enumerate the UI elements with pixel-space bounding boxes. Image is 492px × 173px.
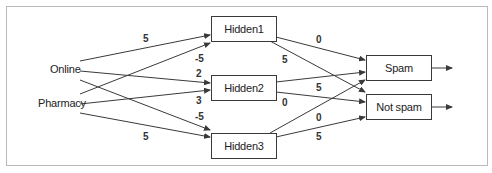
weight-pharmacy-h1: -5 xyxy=(195,53,204,64)
edge-h2-notspam xyxy=(276,92,365,102)
hidden-node-1: Hidden1 xyxy=(211,16,277,42)
input-pharmacy: Pharmacy xyxy=(38,97,86,109)
output-node-spam: Spam xyxy=(366,55,432,81)
weight-pharmacy-h3: 5 xyxy=(143,131,149,142)
edge-pharmacy-h1 xyxy=(80,43,210,94)
weight-h2-notspam: 0 xyxy=(282,97,288,108)
weight-h1-notspam: 5 xyxy=(282,54,288,65)
edge-online-h3 xyxy=(80,80,210,130)
edge-h2-spam xyxy=(276,72,365,82)
hidden-node-2: Hidden2 xyxy=(211,75,277,101)
output-node-not-spam: Not spam xyxy=(366,94,432,120)
weight-online-h1: 5 xyxy=(143,33,149,44)
hidden-node-3: Hidden3 xyxy=(211,133,277,159)
input-online: Online xyxy=(50,63,81,75)
weight-h1-spam: 0 xyxy=(316,34,322,45)
weight-h3-notspam: 5 xyxy=(316,131,322,142)
weight-online-h2: 2 xyxy=(196,68,202,79)
edge-online-h2 xyxy=(80,71,210,83)
weight-h2-spam: 5 xyxy=(316,82,322,93)
weight-h3-spam: 0 xyxy=(316,112,322,123)
weight-pharmacy-h2: 3 xyxy=(196,95,202,106)
edge-pharmacy-h2 xyxy=(80,90,210,104)
weight-online-h3: -5 xyxy=(195,111,204,122)
